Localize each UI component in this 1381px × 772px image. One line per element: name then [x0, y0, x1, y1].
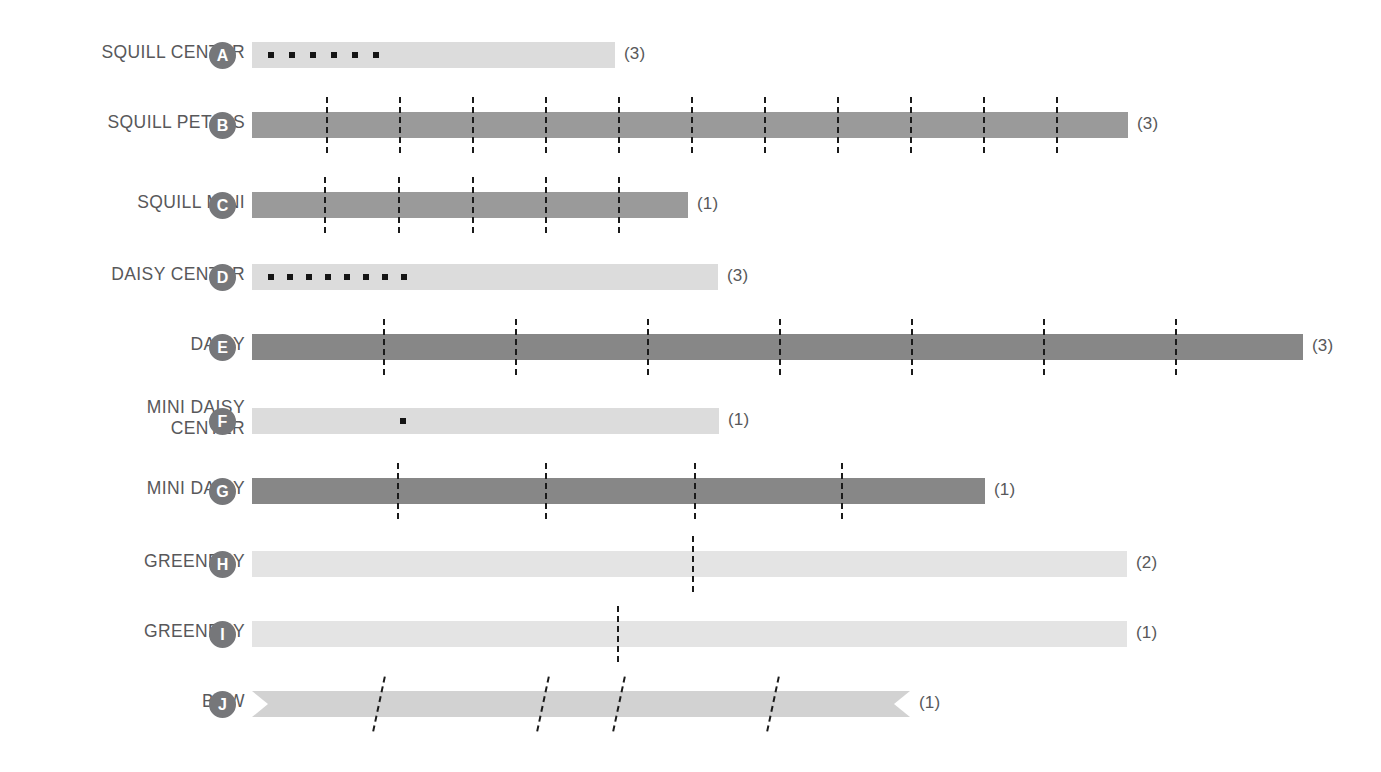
- marker-dot: [363, 274, 369, 280]
- row-badge-letter: A: [209, 42, 236, 69]
- length-bar: [252, 551, 1127, 577]
- cut-line-marker: [779, 319, 781, 375]
- marker-dot: [325, 274, 331, 280]
- quantity-label: (3): [1137, 114, 1158, 134]
- cut-line-marker: [841, 463, 843, 519]
- ribbon-length-diagram: SQUILL CENTERA(3)SQUILL PETALSB(3)SQUILL…: [0, 0, 1381, 772]
- cut-line-marker: [472, 97, 474, 153]
- marker-dot: [306, 274, 312, 280]
- row-badge-letter: H: [209, 551, 236, 578]
- cut-line-marker: [837, 97, 839, 153]
- quantity-label: (1): [994, 480, 1015, 500]
- marker-dot: [310, 52, 316, 58]
- cut-line-marker: [910, 97, 912, 153]
- cut-line-marker: [618, 177, 620, 233]
- cut-line-marker: [1175, 319, 1177, 375]
- cut-line-marker: [647, 319, 649, 375]
- marker-dot: [268, 52, 274, 58]
- length-bar: [252, 42, 615, 68]
- cut-line-marker: [694, 463, 696, 519]
- row-badge-letter: F: [209, 408, 236, 435]
- quantity-label: (2): [1136, 553, 1157, 573]
- row-badge-letter: E: [209, 334, 236, 361]
- row-badge-letter: C: [209, 192, 236, 219]
- cut-line-marker: [617, 606, 619, 662]
- marker-dot: [382, 274, 388, 280]
- cut-line-marker: [515, 319, 517, 375]
- marker-dot: [268, 274, 274, 280]
- cut-line-marker: [618, 97, 620, 153]
- diagram-row: SQUILL PETALSB(3): [0, 82, 1381, 172]
- cut-line-marker: [545, 177, 547, 233]
- cut-line-marker: [399, 97, 401, 153]
- ribbon-notch-left-icon: [252, 691, 268, 717]
- marker-dot: [400, 418, 406, 424]
- length-bar: [252, 192, 688, 218]
- row-badge-letter: G: [209, 478, 236, 505]
- length-bar: [252, 112, 1128, 138]
- cut-line-marker: [764, 97, 766, 153]
- row-badge-letter: D: [209, 264, 236, 291]
- cut-line-marker: [545, 463, 547, 519]
- cut-line-marker: [545, 97, 547, 153]
- cut-line-marker: [472, 177, 474, 233]
- quantity-label: (1): [728, 410, 749, 430]
- diagram-row: BOWJ(1): [0, 661, 1381, 751]
- cut-line-marker: [324, 177, 326, 233]
- cut-line-marker: [692, 536, 694, 592]
- cut-line-marker: [983, 97, 985, 153]
- marker-dot: [331, 52, 337, 58]
- cut-line-marker: [397, 463, 399, 519]
- length-bar: [252, 478, 985, 504]
- row-badge-letter: B: [209, 112, 236, 139]
- length-bar: [252, 334, 1303, 360]
- quantity-label: (1): [1136, 623, 1157, 643]
- marker-dot: [344, 274, 350, 280]
- length-bar: [252, 621, 1127, 647]
- marker-dot: [352, 52, 358, 58]
- cut-line-marker: [398, 177, 400, 233]
- cut-line-marker: [326, 97, 328, 153]
- quantity-label: (3): [1312, 336, 1333, 356]
- cut-line-marker: [1043, 319, 1045, 375]
- marker-dot: [401, 274, 407, 280]
- ribbon-notch-right-icon: [894, 691, 910, 717]
- cut-line-marker: [911, 319, 913, 375]
- marker-dot: [373, 52, 379, 58]
- quantity-label: (1): [697, 194, 718, 214]
- marker-dot: [287, 274, 293, 280]
- cut-line-marker: [691, 97, 693, 153]
- ribbon-bar: [252, 691, 910, 717]
- quantity-label: (1): [919, 693, 940, 713]
- row-badge-letter: J: [209, 691, 236, 718]
- length-bar: [252, 264, 718, 290]
- row-badge-letter: I: [209, 621, 236, 648]
- length-bar: [252, 408, 719, 434]
- cut-line-marker: [1056, 97, 1058, 153]
- marker-dot: [289, 52, 295, 58]
- quantity-label: (3): [727, 266, 748, 286]
- quantity-label: (3): [624, 44, 645, 64]
- cut-line-marker: [383, 319, 385, 375]
